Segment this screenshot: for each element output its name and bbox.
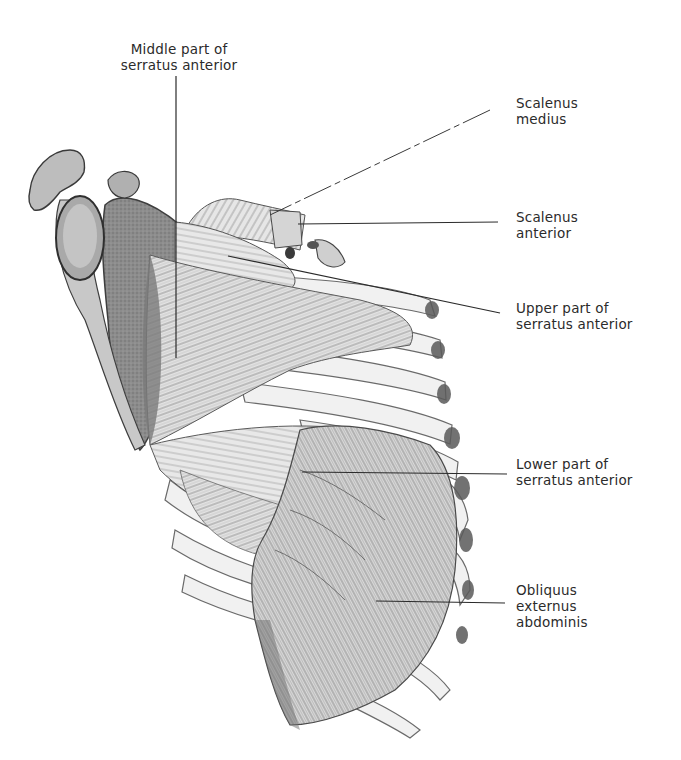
label-line: abdominis xyxy=(516,614,588,630)
leader-scalenus-medius xyxy=(270,110,490,215)
label-line: Lower part of xyxy=(516,456,633,472)
label-line: Obliquus xyxy=(516,582,588,598)
leader-scalenus-anterior xyxy=(298,222,498,224)
label-line: Scalenus xyxy=(516,209,578,225)
leader-obliquus-externus xyxy=(376,601,505,603)
label-line: medius xyxy=(516,111,578,127)
label-line: anterior xyxy=(516,225,578,241)
label-obliquus-externus: Obliquus externus abdominis xyxy=(516,582,588,630)
label-line: Scalenus xyxy=(516,95,578,111)
label-line: serratus anterior xyxy=(516,316,633,332)
label-line: Middle part of xyxy=(104,41,254,57)
label-line: serratus anterior xyxy=(104,57,254,73)
label-lower-serratus: Lower part of serratus anterior xyxy=(516,456,633,488)
leader-lower-serratus xyxy=(302,472,507,474)
label-line: Upper part of xyxy=(516,300,633,316)
label-scalenus-medius: Scalenus medius xyxy=(516,95,578,127)
label-upper-serratus: Upper part of serratus anterior xyxy=(516,300,633,332)
label-line: serratus anterior xyxy=(516,472,633,488)
label-line: externus xyxy=(516,598,588,614)
label-scalenus-anterior: Scalenus anterior xyxy=(516,209,578,241)
leader-upper-serratus xyxy=(228,256,500,313)
label-middle-serratus: Middle part of serratus anterior xyxy=(104,41,254,73)
anatomy-figure: Middle part of serratus anterior Scalenu… xyxy=(0,0,681,760)
leader-lines xyxy=(0,0,681,760)
